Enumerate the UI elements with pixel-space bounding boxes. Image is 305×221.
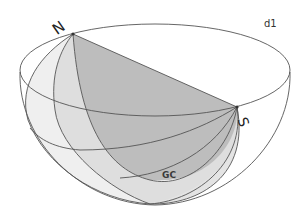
north-point xyxy=(71,32,74,35)
great-circle-label: GC xyxy=(162,170,176,180)
figure-label: d1 xyxy=(264,18,277,29)
hemisphere-diagram xyxy=(0,0,305,221)
south-point xyxy=(235,105,238,108)
